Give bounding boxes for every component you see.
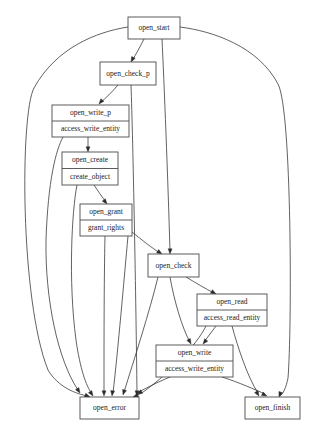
edge-line (170, 277, 190, 342)
nodes-layer: open_startopen_check_popen_write_paccess… (52, 17, 300, 419)
node-label-open_error-row0: open_error (93, 403, 126, 412)
edge-open_write_p-to-open_create (86, 137, 90, 152)
arrow-head-icon (86, 147, 90, 152)
edge-line (139, 377, 170, 392)
edge-open_check-to-open_write (170, 277, 193, 345)
node-label-open_write-row0: open_write (178, 348, 212, 357)
node-label-open_grant-row1: grant_rights (88, 223, 124, 232)
edge-open_read-to-open_write (201, 326, 216, 345)
edge-line (132, 232, 160, 253)
node-open_finish[interactable]: open_finish (245, 397, 300, 419)
node-label-open_check-row0: open_check (156, 261, 192, 270)
edge-open_check_p-to-open_error (131, 85, 139, 396)
edge-line (113, 236, 128, 393)
arrow-head-icon (201, 339, 207, 346)
edge-line (104, 236, 105, 393)
edge-line (186, 277, 214, 293)
edge-open_write-to-open_finish (222, 377, 268, 398)
node-open_start[interactable]: open_start (128, 17, 180, 39)
diagram-canvas: open_startopen_check_popen_write_paccess… (0, 0, 311, 436)
node-label-open_read-row0: open_read (216, 297, 247, 306)
node-label-open_write_p-row1: access_write_entity (61, 124, 120, 133)
node-label-open_create-row0: open_create (72, 155, 109, 164)
edge-open_check_p-to-open_write_p (97, 85, 118, 105)
graph-svg: open_startopen_check_popen_write_paccess… (0, 0, 311, 436)
arrow-head-icon (168, 249, 172, 254)
arrow-head-icon (102, 391, 106, 396)
edge-line (131, 85, 137, 394)
node-label-open_read-row1: access_read_entity (204, 313, 261, 322)
arrow-head-icon (88, 391, 94, 398)
edge-open_start-to-open_check (162, 39, 172, 254)
node-label-open_write_p-row0: open_write_p (70, 108, 111, 117)
edge-open_check-to-open_error (121, 277, 158, 396)
node-label-open_grant-row0: open_grant (89, 207, 124, 216)
edge-open_start-to-open_check_p (129, 39, 144, 63)
edge-open_start-to-open_finish (180, 27, 290, 398)
edge-line (222, 377, 265, 394)
arrow-head-icon (187, 338, 193, 344)
node-label-open_create-row1: create_object (70, 172, 111, 181)
node-open_write[interactable]: open_writeaccess_write_entity (156, 345, 233, 377)
edges-layer (25, 27, 290, 399)
edge-line (124, 277, 158, 392)
node-open_error[interactable]: open_error (80, 397, 139, 419)
node-open_read[interactable]: open_readaccess_read_entity (197, 294, 267, 326)
edge-open_check-to-open_read (186, 277, 217, 296)
node-label-open_start-row0: open_start (138, 23, 170, 32)
node-open_check[interactable]: open_check (148, 254, 199, 277)
edge-open_write-to-open_error (136, 377, 170, 396)
arrow-head-icon (97, 99, 103, 106)
node-label-open_check_p-row0: open_check_p (106, 69, 150, 78)
edge-line (232, 326, 258, 393)
node-label-open_finish-row0: open_finish (255, 403, 291, 412)
node-open_check_p[interactable]: open_check_p (100, 62, 156, 85)
edge-open_grant-to-open_error (102, 236, 106, 396)
edge-line (162, 39, 170, 252)
node-open_write_p[interactable]: open_write_paccess_write_entity (52, 105, 129, 137)
node-open_grant[interactable]: open_grantgrant_rights (80, 204, 132, 236)
node-open_create[interactable]: open_createcreate_object (62, 152, 118, 185)
edge-open_grant-to-open_error (110, 236, 128, 396)
edge-open_create-to-open_grant (94, 185, 109, 205)
edge-open_grant-to-open_check (132, 232, 163, 256)
arrow-head-icon (121, 389, 126, 395)
node-label-open_write-row1: access_write_entity (165, 364, 224, 373)
arrow-head-icon (110, 391, 115, 397)
